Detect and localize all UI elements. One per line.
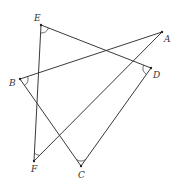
label-D: D <box>152 70 160 80</box>
angle-mark-C <box>76 160 85 161</box>
point-B <box>19 78 21 80</box>
segment-CD <box>81 68 151 166</box>
angle-mark-F <box>34 153 39 155</box>
label-B: B <box>8 78 16 88</box>
point-D <box>150 67 152 69</box>
point-E <box>40 24 42 26</box>
point-A <box>161 31 163 33</box>
point-C <box>80 165 82 167</box>
segment-AB <box>20 32 162 79</box>
angle-mark-E <box>41 28 49 33</box>
segment-EF <box>34 25 41 161</box>
point-F <box>33 160 35 162</box>
segment-ED <box>41 25 151 68</box>
angle-mark-B <box>25 77 28 86</box>
geometry-diagram: E A D B F C <box>0 0 179 191</box>
label-E: E <box>33 13 41 23</box>
label-F: F <box>30 164 38 174</box>
label-A: A <box>163 34 171 44</box>
label-C: C <box>78 170 85 180</box>
